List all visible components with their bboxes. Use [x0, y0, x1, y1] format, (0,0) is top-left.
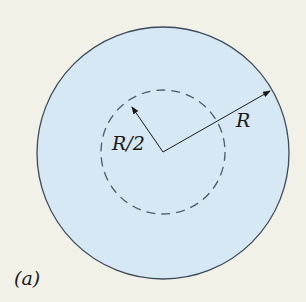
sphere-diagram: R/2 R (a) — [0, 0, 306, 302]
outer-disk — [37, 27, 289, 279]
panel-label: (a) — [14, 267, 40, 289]
outer-radius-label: R — [235, 109, 250, 131]
inner-radius-label: R/2 — [111, 132, 145, 154]
